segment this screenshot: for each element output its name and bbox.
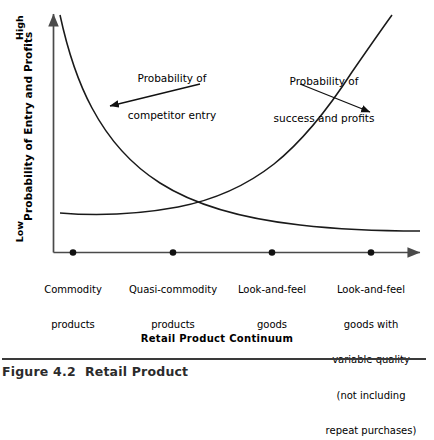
tick-2-line1: Quasi-commodity: [118, 284, 228, 296]
annotation-success-profits-line1: Probability of: [272, 75, 376, 87]
tick-4-line5: repeat purchases): [316, 425, 426, 437]
tick-2-line2: products: [118, 319, 228, 331]
annotation-competitor-entry-line2: competitor entry: [118, 109, 226, 121]
annotation-competitor-entry-line1: Probability of: [118, 72, 226, 84]
annotation-competitor-entry: Probability of competitor entry: [118, 47, 226, 146]
x-axis-title: Retail Product Continuum: [87, 333, 347, 345]
tick-4-line4: (not including: [316, 390, 426, 402]
tick-dot-2: [170, 249, 177, 256]
tick-1-line2: products: [23, 319, 123, 331]
tick-4-line3: variable quality: [316, 354, 426, 366]
caption-divider: [2, 358, 426, 360]
tick-1-line1: Commodity: [23, 284, 123, 296]
annotation-success-profits: Probability of success and profits: [272, 50, 376, 149]
y-axis-low-label: Low: [14, 204, 25, 260]
tick-3-line2: goods: [222, 319, 322, 331]
tick-4-line1: Look-and-feel: [316, 284, 426, 296]
tick-3-line1: Look-and-feel: [222, 284, 322, 296]
tick-dot-1: [70, 249, 77, 256]
figure-caption: Figure 4.2 Retail Product: [2, 364, 188, 379]
annotation-success-profits-line2: success and profits: [272, 112, 376, 124]
x-tick-label-look-and-feel-goods-variable-quality: Look-and-feel goods with variable qualit…: [316, 260, 426, 440]
tick-dot-3: [269, 249, 276, 256]
tick-4-line2: goods with: [316, 319, 426, 331]
tick-dot-4: [368, 249, 375, 256]
y-axis-high-label: High: [14, 0, 25, 58]
